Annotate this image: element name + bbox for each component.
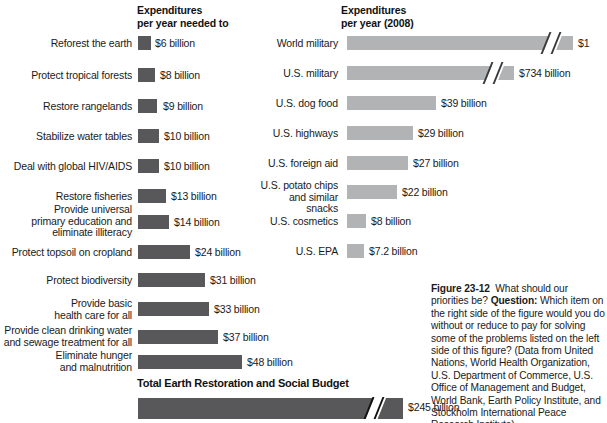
left-column-header: Expenditures per year needed to xyxy=(137,4,229,30)
bar-value: $14 billion xyxy=(174,215,220,229)
bar-value: $24 billion xyxy=(195,245,241,259)
bar-value: $10 billion xyxy=(164,129,210,143)
bar-value: $8 billion xyxy=(160,68,200,82)
caption-question-label: Question: xyxy=(491,295,538,306)
caption-source: (Data from United Nations, World Health … xyxy=(431,345,601,423)
bar xyxy=(138,189,166,203)
bar-value: $13 billion xyxy=(171,189,217,203)
bar-value: $9 billion xyxy=(163,99,203,113)
bar xyxy=(138,330,218,344)
bar-value: $1 xyxy=(578,36,589,50)
row-label: Protect biodiversity xyxy=(0,275,132,287)
bar xyxy=(347,244,364,258)
row-label: Restore fisheries xyxy=(0,191,132,203)
row-label: U.S. military xyxy=(265,68,338,80)
total-budget-bar xyxy=(138,398,403,419)
bar-value: $48 billion xyxy=(247,355,293,369)
bar xyxy=(138,99,157,113)
total-budget-title: Total Earth Restoration and Social Budge… xyxy=(137,377,349,389)
bar xyxy=(347,36,573,50)
bar-value: $39 billion xyxy=(441,96,487,110)
row-label: U.S. EPA xyxy=(265,246,338,258)
bar xyxy=(138,36,151,50)
figure-caption: Figure 23-12 What should our priorities … xyxy=(431,283,607,423)
bar-value: $33 billion xyxy=(214,302,260,316)
row-label: Deal with global HIV/AIDS xyxy=(0,161,132,173)
bar-value: $8 billion xyxy=(371,214,411,228)
row-label: U.S. foreign aid xyxy=(265,158,338,170)
bar xyxy=(347,96,436,110)
row-label: U.S. dog food xyxy=(265,98,338,110)
bar xyxy=(138,273,205,287)
row-label: Restore rangelands xyxy=(0,101,132,113)
row-label: U.S. cosmetics xyxy=(265,216,338,228)
bar xyxy=(347,156,408,170)
right-column-header: Expenditures per year (2008) xyxy=(341,4,414,30)
bar xyxy=(347,126,413,140)
bar xyxy=(347,185,397,199)
row-label: Protect tropical forests xyxy=(0,70,132,82)
row-label: Provide universal primary education and … xyxy=(0,204,132,239)
bar-value: $27 billion xyxy=(413,156,459,170)
row-label: Eliminate hunger and malnutrition xyxy=(0,350,132,373)
row-label: World military xyxy=(265,38,338,50)
row-label: Provide clean drinking water and sewage … xyxy=(0,325,132,348)
bar xyxy=(138,245,190,259)
row-label: Stabilize water tables xyxy=(0,131,132,143)
bar xyxy=(347,214,366,228)
bar-value: $6 billion xyxy=(155,36,195,50)
row-label: Reforest the earth xyxy=(0,38,132,50)
bar-value: $734 billion xyxy=(519,66,570,80)
bar xyxy=(347,66,514,80)
bar xyxy=(138,129,159,143)
bar xyxy=(138,159,159,173)
bar xyxy=(138,355,242,369)
row-label: Provide basic health care for all xyxy=(0,298,132,321)
bar-value: $22 billion xyxy=(402,185,448,199)
bar xyxy=(138,215,169,229)
bar-value: $10 billion xyxy=(164,159,210,173)
bar-value: $7.2 billion xyxy=(369,244,417,258)
bar-value: $31 billion xyxy=(210,273,256,287)
row-label: U.S. potato chips and similar snacks xyxy=(255,180,338,215)
bar-value: $37 billion xyxy=(223,330,269,344)
row-label: U.S. highways xyxy=(265,128,338,140)
bar xyxy=(138,68,155,82)
row-label: Protect topsoil on cropland xyxy=(0,247,132,259)
bar-value: $29 billion xyxy=(418,126,464,140)
bar xyxy=(138,302,209,316)
caption-figure-number: Figure 23-12 xyxy=(431,283,490,294)
